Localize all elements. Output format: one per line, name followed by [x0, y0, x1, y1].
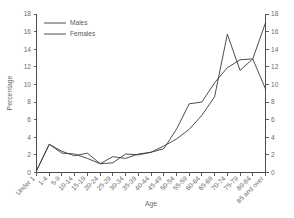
y-axis-right-labels: 024681012141618 [271, 10, 279, 176]
y-tick-label-left: 12 [24, 63, 32, 70]
y-tick-label-right: 14 [271, 46, 279, 53]
line-chart-plot: 024681012141618 024681012141618 Under 11… [0, 0, 294, 218]
x-category-label: 1-4 [37, 175, 49, 187]
y-tick-label-left: 14 [24, 46, 32, 53]
y-tick-label-right: 18 [271, 10, 279, 17]
y-tick-label-left: 6 [27, 116, 31, 123]
y-tick-label-right: 6 [271, 116, 275, 123]
y-tick-label-right: 10 [271, 81, 279, 88]
y-tick-label-right: 4 [271, 134, 275, 141]
x-category-label: Under 1 [14, 175, 36, 197]
y-tick-label-right: 0 [271, 169, 275, 176]
legend-label-females: Females [70, 30, 96, 37]
y-axis-left-labels: 024681012141618 [24, 10, 32, 176]
y-tick-label-left: 2 [27, 151, 31, 158]
x-axis-category-labels: Under 11-45-910-1415-1920-2425-2930-3435… [14, 174, 265, 204]
y-tick-label-right: 16 [271, 28, 279, 35]
y-axis-title: Percentage [6, 75, 14, 110]
y-tick-label-left: 18 [24, 10, 32, 17]
x-axis-title: Age [145, 200, 157, 208]
y-tick-label-right: 8 [271, 98, 275, 105]
y-tick-label-left: 4 [27, 134, 31, 141]
series-lines-group [37, 23, 266, 171]
y-tick-label-right: 12 [271, 63, 279, 70]
chart-container: 024681012141618 024681012141618 Under 11… [0, 0, 294, 218]
series-line-males [37, 23, 266, 171]
y-tick-label-left: 8 [27, 98, 31, 105]
chart-legend: MalesFemales [44, 19, 96, 37]
series-line-females [37, 59, 266, 171]
y-tick-label-left: 10 [24, 81, 32, 88]
y-tick-label-right: 2 [271, 151, 275, 158]
legend-label-males: Males [70, 19, 88, 26]
y-tick-label-left: 16 [24, 28, 32, 35]
